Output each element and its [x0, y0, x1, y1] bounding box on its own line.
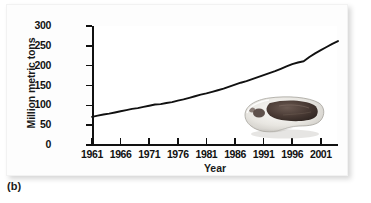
y-tick-label: 0: [17, 138, 51, 150]
y-tick-label: 250: [17, 39, 51, 51]
y-tick-label: 150: [17, 79, 51, 91]
y-tick-label: 300: [17, 19, 51, 31]
meat-cut-photo: [239, 93, 327, 139]
figure-caption: (b): [7, 180, 21, 192]
y-tick-label: 50: [17, 118, 51, 130]
x-axis-title: Year: [92, 162, 338, 174]
figure-card: Million metric tons 050100150200250300 1…: [6, 4, 348, 176]
y-tick-label: 100: [17, 98, 51, 110]
y-tick-label: 200: [17, 59, 51, 71]
x-tick-label: 2001: [301, 148, 341, 160]
